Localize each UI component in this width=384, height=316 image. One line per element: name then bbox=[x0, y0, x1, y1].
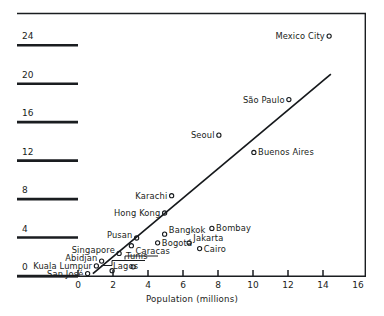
point-label-hong-kong: Hong Kong bbox=[114, 209, 160, 217]
point-label-kuala-lumpur: Kuala Lumpur bbox=[33, 262, 92, 270]
x-tick-label-2: 2 bbox=[110, 281, 116, 290]
point-label-são-paulo: São Paulo bbox=[243, 96, 285, 104]
x-tick-label-8: 8 bbox=[215, 281, 221, 290]
x-tick-label-4: 4 bbox=[145, 281, 151, 290]
y-tick-label-4: 4 bbox=[22, 225, 28, 234]
point-label-jakarta: Jakarta bbox=[193, 234, 223, 242]
point-label-lagos: Lagos bbox=[113, 262, 138, 270]
scatter-plot-figure: 04812162024 0246810121416 San JoséKuala … bbox=[0, 0, 384, 316]
y-tick-label-8: 8 bbox=[22, 186, 28, 195]
marker-bogotá bbox=[156, 241, 160, 245]
point-label-mexico-city: Mexico City bbox=[275, 32, 325, 40]
x-tick-label-10: 10 bbox=[247, 281, 258, 290]
marker-são-paulo bbox=[287, 97, 291, 101]
marker-bangkok bbox=[163, 232, 167, 236]
point-label-pusan: Pusan bbox=[107, 231, 133, 239]
x-axis-title: Population (millions) bbox=[146, 295, 238, 304]
marker-cairo bbox=[198, 246, 202, 250]
y-tick-label-24: 24 bbox=[22, 32, 33, 41]
x-tick-label-14: 14 bbox=[317, 281, 328, 290]
marker-mexico-city bbox=[327, 34, 331, 38]
marker-buenos-aires bbox=[252, 150, 256, 154]
x-tick-label-12: 12 bbox=[282, 281, 293, 290]
marker-bombay bbox=[210, 226, 214, 230]
point-label-bombay: Bombay bbox=[216, 224, 251, 232]
point-label-buenos-aires: Buenos Aires bbox=[258, 148, 314, 156]
marker-seoul bbox=[217, 133, 221, 137]
marker-abidjan bbox=[100, 259, 104, 263]
y-tick-label-0: 0 bbox=[22, 263, 28, 272]
marker-karachi bbox=[170, 194, 174, 198]
point-label-bogotá: Bogotá bbox=[162, 239, 192, 247]
y-axis-tick-marks bbox=[17, 45, 78, 276]
y-tick-label-12: 12 bbox=[22, 148, 33, 157]
point-label-seoul: Seoul bbox=[191, 131, 215, 139]
y-tick-label-20: 20 bbox=[22, 71, 33, 80]
y-tick-label-16: 16 bbox=[22, 109, 33, 118]
marker-san-josé bbox=[86, 271, 90, 275]
x-tick-label-16: 16 bbox=[352, 281, 363, 290]
x-tick-label-6: 6 bbox=[180, 281, 186, 290]
point-label-karachi: Karachi bbox=[135, 192, 167, 200]
marker-kuala-lumpur bbox=[94, 264, 98, 268]
marker-caracas bbox=[129, 244, 133, 248]
x-tick-label-0: 0 bbox=[75, 281, 81, 290]
point-label-tunis: Tunis bbox=[126, 252, 148, 260]
point-label-cairo: Cairo bbox=[204, 245, 226, 253]
point-label-singapore: Singapore bbox=[72, 246, 115, 254]
